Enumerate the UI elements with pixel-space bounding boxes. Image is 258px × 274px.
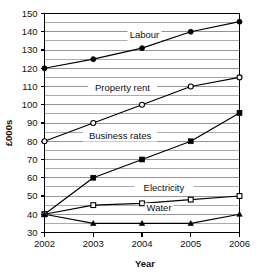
y-tick-label: 30: [27, 227, 38, 238]
data-point: [237, 75, 242, 80]
data-point: [91, 57, 96, 62]
x-tick-label: 2004: [131, 238, 152, 249]
y-tick-label: 90: [27, 117, 38, 128]
data-point: [91, 175, 96, 180]
chart-canvas: 30405060708090100110120130140150 2002200…: [0, 0, 258, 274]
data-point: [42, 66, 47, 71]
data-point: [188, 84, 193, 89]
x-tick-label: 2006: [229, 238, 250, 249]
x-tick-label: 2003: [83, 238, 104, 249]
data-point: [188, 139, 193, 144]
x-tick-label: 2002: [34, 238, 55, 249]
data-point: [140, 157, 145, 162]
series-label: Water: [147, 202, 172, 213]
data-point: [188, 29, 193, 34]
data-point: [237, 19, 242, 24]
data-point: [140, 46, 145, 51]
series-label: Business rates: [89, 130, 152, 141]
series-label: Labour: [130, 29, 160, 40]
y-tick-label: 110: [22, 81, 37, 92]
y-tick-label: 140: [22, 26, 38, 37]
data-point: [91, 203, 96, 208]
x-tick-label: 2005: [180, 238, 201, 249]
x-axis-title: Year: [135, 258, 155, 269]
data-point: [237, 111, 242, 116]
data-point: [188, 197, 193, 202]
y-axis-title: £000s: [3, 120, 14, 146]
data-point: [42, 139, 47, 144]
y-tick-label: 70: [27, 154, 38, 165]
y-tick-label: 100: [22, 99, 38, 110]
y-tick-label: 150: [22, 8, 38, 19]
data-point: [91, 121, 96, 126]
line-chart: 30405060708090100110120130140150 2002200…: [0, 0, 258, 274]
y-tick-label: 50: [27, 190, 38, 201]
y-tick-label: 120: [22, 63, 38, 74]
data-point: [140, 201, 145, 206]
y-tick-label: 40: [27, 209, 38, 220]
y-tick-label: 60: [27, 172, 38, 183]
y-tick-label: 130: [22, 44, 38, 55]
data-point: [140, 102, 145, 107]
series-label: Electricity: [144, 182, 185, 193]
y-tick-label: 80: [27, 136, 38, 147]
data-point: [237, 194, 242, 199]
series-label: Property rent: [95, 82, 150, 93]
